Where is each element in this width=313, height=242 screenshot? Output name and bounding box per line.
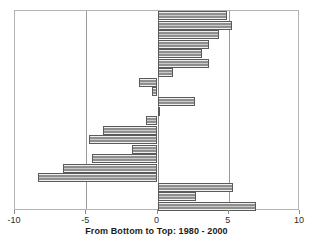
x-tick-label: -10 [7, 214, 20, 226]
bar-row [15, 78, 298, 87]
bar [158, 192, 196, 201]
bar [158, 40, 209, 49]
bar [158, 49, 202, 58]
bar [38, 173, 158, 182]
bar [158, 97, 195, 106]
bar-row [15, 164, 298, 173]
bar [158, 183, 234, 192]
bar-row [15, 97, 298, 106]
bar-chart: -10-50510 From Bottom to Top: 1980 - 200… [0, 0, 313, 242]
bar-row [15, 59, 298, 68]
bar-row [15, 40, 298, 49]
bar [158, 59, 209, 68]
bar-row [15, 145, 298, 154]
bar [158, 11, 228, 20]
bar-row [15, 135, 298, 144]
bar [89, 135, 157, 144]
bar [103, 126, 157, 135]
bar-row [15, 21, 298, 30]
bar-row [15, 126, 298, 135]
bar-row [15, 192, 298, 201]
bar [63, 164, 157, 173]
bar [132, 145, 158, 154]
bar-row [15, 116, 298, 125]
bar-row [15, 49, 298, 58]
bar [152, 87, 158, 96]
bar [92, 154, 158, 163]
bar [158, 30, 219, 39]
bar [158, 68, 174, 77]
plot-area [14, 10, 299, 210]
x-axis-title: From Bottom to Top: 1980 - 2000 [0, 226, 313, 236]
bar-row [15, 107, 298, 116]
bar-row [15, 87, 298, 96]
bar-row [15, 11, 298, 20]
bar [158, 21, 232, 30]
x-tick-label: 10 [294, 214, 304, 226]
bar [146, 116, 157, 125]
bar-series [15, 11, 298, 209]
bar-row [15, 68, 298, 77]
bar-row [15, 30, 298, 39]
bar-row [15, 173, 298, 182]
x-tick-label: 5 [225, 214, 230, 226]
bar-row [15, 154, 298, 163]
x-tick-label: 0 [154, 214, 159, 226]
bar-row [15, 183, 298, 192]
x-tick-label: -5 [81, 214, 89, 226]
bar [158, 107, 160, 116]
bar [139, 78, 158, 87]
